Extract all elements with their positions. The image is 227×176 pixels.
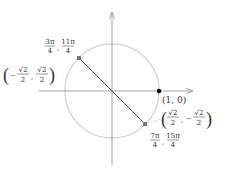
- svg-text:√2: √2: [169, 109, 178, 117]
- svg-text:7π: 7π: [150, 132, 159, 140]
- svg-text:−: −: [186, 115, 192, 123]
- svg-text:4: 4: [48, 47, 53, 55]
- svg-text:,: ,: [31, 73, 33, 81]
- unit-circle-diagram: (1, 0) 3π 4 , 11π 4 ( − √2 2 , √2 2 ) ( …: [0, 0, 227, 176]
- svg-text:−: −: [10, 72, 16, 80]
- svg-text:2: 2: [197, 119, 201, 127]
- svg-text:√2: √2: [195, 109, 204, 117]
- coord-label-p1: ( − √2 2 , √2 2 ): [3, 65, 55, 86]
- svg-text:,: ,: [181, 116, 183, 124]
- leader-line-p1: [71, 60, 78, 66]
- svg-text:(: (: [3, 65, 9, 86]
- svg-text:√2: √2: [38, 66, 47, 74]
- coord-label-1-0: (1, 0): [162, 95, 186, 105]
- coord-label-p2: ( √2 2 , − √2 2 ): [161, 109, 212, 130]
- svg-text:4: 4: [171, 141, 176, 149]
- angle-label-p2: 7π 4 , 15π 4: [150, 132, 180, 149]
- svg-text:): ): [206, 109, 212, 130]
- svg-text:2: 2: [171, 119, 175, 127]
- svg-text:): ): [49, 65, 55, 86]
- point-3pi-4: [77, 56, 81, 60]
- svg-text:2: 2: [40, 76, 44, 84]
- svg-text:3π: 3π: [45, 38, 54, 46]
- svg-text:,: ,: [162, 138, 164, 146]
- svg-text:,: ,: [57, 44, 59, 52]
- svg-text:15π: 15π: [166, 132, 180, 140]
- svg-text:√2: √2: [19, 66, 28, 74]
- angle-label-p1: 3π 4 , 11π 4: [45, 38, 75, 55]
- point-1-0: [157, 89, 162, 94]
- svg-text:(: (: [161, 109, 167, 130]
- point-7pi-4: [143, 122, 147, 126]
- svg-text:4: 4: [66, 47, 71, 55]
- svg-text:2: 2: [21, 76, 25, 84]
- svg-text:11π: 11π: [61, 38, 75, 46]
- svg-text:4: 4: [153, 141, 158, 149]
